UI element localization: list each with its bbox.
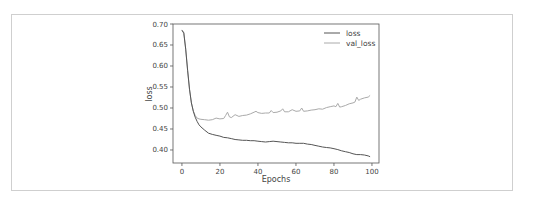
x-tick-label: 60 xyxy=(291,168,300,176)
legend-label-loss: loss xyxy=(346,29,361,38)
y-tick-label: 0.70 xyxy=(152,21,168,29)
x-tick-label: 100 xyxy=(365,168,378,176)
y-tick-label: 0.65 xyxy=(152,41,168,49)
y-axis-ticks: 0.400.450.500.550.600.650.70 xyxy=(152,21,173,155)
x-tick-label: 80 xyxy=(330,168,339,176)
x-tick-label: 20 xyxy=(215,168,224,176)
legend: loss val_loss xyxy=(324,29,375,48)
legend-label-val-loss: val_loss xyxy=(346,39,375,48)
y-axis-label: loss xyxy=(145,86,154,101)
y-tick-label: 0.55 xyxy=(152,83,168,91)
loss-line-chart: 020406080100 0.400.450.500.550.600.650.7… xyxy=(0,0,540,200)
y-tick-label: 0.45 xyxy=(152,125,168,133)
x-tick-label: 0 xyxy=(180,168,184,176)
y-tick-label: 0.60 xyxy=(152,62,168,70)
plot-lines xyxy=(182,30,370,157)
series-line-loss xyxy=(182,30,370,156)
series-line-val-loss xyxy=(182,30,370,120)
x-axis-label: Epochs xyxy=(262,175,291,184)
y-tick-label: 0.40 xyxy=(152,146,168,154)
y-tick-label: 0.50 xyxy=(152,104,168,112)
